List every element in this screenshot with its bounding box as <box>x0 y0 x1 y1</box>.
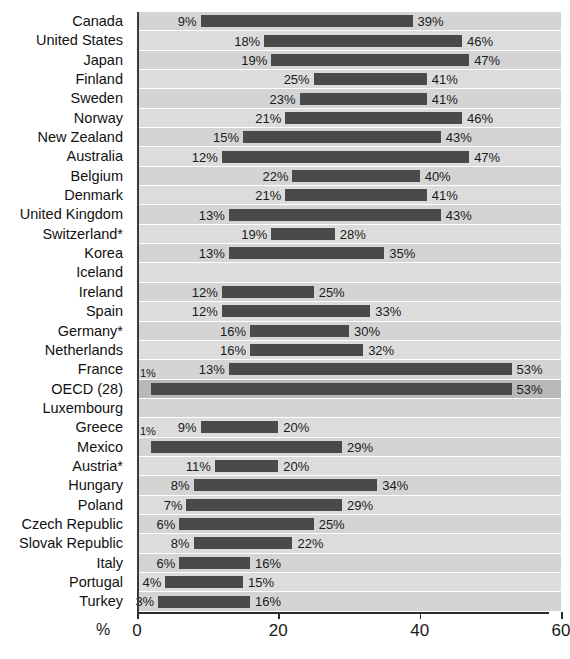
range-bar <box>165 576 243 588</box>
bar-start-value-label: 22% <box>262 168 288 183</box>
chart-row: 15%43% <box>137 128 561 147</box>
chart-row: 23%41% <box>137 89 561 108</box>
bar-end-value-label: 22% <box>297 536 323 551</box>
bar-start-value-label: 16% <box>220 343 246 358</box>
bar-end-value-label: 34% <box>382 478 408 493</box>
bar-start-value-label: 21% <box>255 110 281 125</box>
bar-rows: 9%39%18%46%19%47%25%41%23%41%21%46%15%43… <box>137 12 561 612</box>
range-bar <box>201 421 279 433</box>
chart-row: 8%22% <box>137 534 561 553</box>
range-bar <box>151 441 342 453</box>
chart-row: 3%16% <box>137 592 561 611</box>
category-label: Finland <box>0 70 131 89</box>
bar-extra-value-label: 1% <box>140 425 156 437</box>
category-axis-labels: CanadaUnited StatesJapanFinlandSwedenNor… <box>0 12 131 612</box>
category-label: Poland <box>0 496 131 515</box>
category-label: Portugal <box>0 573 131 592</box>
bar-start-value-label: 16% <box>220 323 246 338</box>
category-label: Norway <box>0 109 131 128</box>
x-axis-tick-label: 60 <box>552 621 570 641</box>
bar-start-value-label: 11% <box>186 459 211 474</box>
chart-row: 18%46% <box>137 31 561 50</box>
bar-end-value-label: 29% <box>347 439 373 454</box>
category-label: New Zealand <box>0 128 131 147</box>
chart-title <box>0 0 567 8</box>
category-label: Mexico <box>0 438 131 457</box>
bar-end-value-label: 46% <box>467 33 493 48</box>
chart-row: 21%46% <box>137 109 561 128</box>
chart-row: 25%41% <box>137 70 561 89</box>
x-axis-tick <box>278 612 280 619</box>
range-bar <box>229 247 384 259</box>
range-bar <box>285 189 426 201</box>
bar-start-value-label: 9% <box>178 14 197 29</box>
bar-end-value-label: 28% <box>340 226 366 241</box>
x-axis-tick-label: 40 <box>410 621 429 641</box>
range-bar <box>186 499 341 511</box>
range-bar <box>179 557 250 569</box>
bar-start-value-label: 6% <box>157 517 176 532</box>
chart-row: 16%30% <box>137 322 561 341</box>
bar-start-value-label: 21% <box>255 188 281 203</box>
range-bar <box>243 131 441 143</box>
category-label: Czech Republic <box>0 515 131 534</box>
bar-end-value-label: 35% <box>389 246 415 261</box>
bar-end-value-label: 43% <box>446 130 472 145</box>
x-axis-line <box>137 612 549 614</box>
bar-start-value-label: 4% <box>142 575 161 590</box>
range-bar <box>194 479 378 491</box>
range-bar <box>158 596 250 608</box>
category-label: Germany* <box>0 322 131 341</box>
range-bar <box>201 15 413 27</box>
bar-start-value-label: 23% <box>270 91 296 106</box>
bar-start-value-label: 13% <box>199 207 225 222</box>
category-label: Luxembourg <box>0 399 131 418</box>
bar-start-value-label: 9% <box>178 420 197 435</box>
bar-end-value-label: 41% <box>432 72 458 87</box>
bar-end-value-label: 15% <box>248 575 274 590</box>
bar-start-value-label: 6% <box>157 555 176 570</box>
chart-row: 16%32% <box>137 341 561 360</box>
range-bar <box>229 363 512 375</box>
chart-row: 4%15% <box>137 573 561 592</box>
chart-row: 6%16% <box>137 554 561 573</box>
chart-row: 6%25% <box>137 515 561 534</box>
x-axis-tick <box>137 612 139 619</box>
range-bar <box>194 537 293 549</box>
range-bar <box>215 460 279 472</box>
chart-row: 21%41% <box>137 186 561 205</box>
range-bar <box>250 344 363 356</box>
bar-start-value-label: 8% <box>171 536 190 551</box>
bar-end-value-label: 16% <box>255 594 281 609</box>
category-label: Hungary <box>0 476 131 495</box>
chart-row: 12%33% <box>137 302 561 321</box>
bar-end-value-label: 33% <box>375 304 401 319</box>
x-axis-tick-label: 20 <box>269 621 288 641</box>
x-axis-tick-label: 0 <box>132 621 141 641</box>
range-bar <box>151 383 511 395</box>
bar-start-value-label: 8% <box>171 478 190 493</box>
bar-end-value-label: 29% <box>347 497 373 512</box>
category-label: Belgium <box>0 167 131 186</box>
range-bar <box>179 518 313 530</box>
bar-start-value-label: 13% <box>199 362 225 377</box>
category-label: Japan <box>0 51 131 70</box>
category-label: Canada <box>0 12 131 31</box>
chart-row: 22%40% <box>137 167 561 186</box>
bar-start-value-label: 19% <box>241 226 267 241</box>
bar-end-value-label: 46% <box>467 110 493 125</box>
bar-start-value-label: 13% <box>199 246 225 261</box>
category-label: Austria* <box>0 457 131 476</box>
bar-start-value-label: 15% <box>213 130 239 145</box>
chart-row: 11%20% <box>137 457 561 476</box>
range-bar <box>222 305 370 317</box>
category-label: Korea <box>0 244 131 263</box>
range-bar <box>250 325 349 337</box>
plot-area: 9%39%18%46%19%47%25%41%23%41%21%46%15%43… <box>137 12 561 612</box>
range-bar <box>300 93 427 105</box>
bar-end-value-label: 20% <box>283 459 309 474</box>
bar-end-value-label: 16% <box>255 555 281 570</box>
chart-row: 7%29% <box>137 496 561 515</box>
category-label: Iceland <box>0 263 131 282</box>
